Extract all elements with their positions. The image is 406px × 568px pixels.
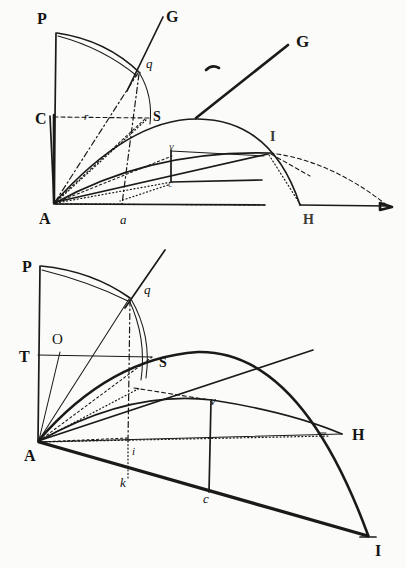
upper-ray-G2: [196, 45, 288, 118]
lower-ray-through-q: [125, 250, 165, 308]
label-lower-A: A: [24, 447, 36, 464]
upper-dashed-I-right: [271, 154, 310, 176]
upper-dotted-IH: [269, 155, 300, 204]
lower-curve-outer: [39, 352, 368, 535]
label-lower-c: c: [203, 491, 209, 506]
upper-dashed-CS: [54, 117, 150, 118]
lower-line-PA: [38, 266, 40, 441]
lower-curve-inner: [39, 398, 342, 441]
upper-ray-fan-from-A: [55, 73, 265, 205]
label-upper-G1: G: [166, 8, 179, 25]
label-upper-C: C: [35, 110, 47, 127]
label-upper-S: S: [153, 109, 161, 124]
label-lower-T: T: [19, 348, 30, 365]
label-lower-q: q: [144, 282, 151, 297]
label-lower-S: S: [159, 355, 167, 370]
lower-line-TS: [38, 355, 152, 357]
label-lower-H: H: [352, 426, 365, 443]
label-upper-c: c: [168, 177, 173, 189]
stray-tick-icon: [206, 66, 219, 70]
label-upper-v: v: [169, 140, 174, 152]
lower-ray-A-upright: [38, 350, 313, 441]
upper-arc-Pq-inner: [58, 36, 137, 76]
upper-curve-middle-tail: [270, 153, 388, 206]
engraving-plate: P G q G C r S I v c A a H: [0, 0, 406, 568]
label-upper-P: P: [37, 10, 47, 27]
upper-ray-G1: [127, 17, 163, 91]
lower-arc-Pq: [41, 266, 130, 298]
upper-chord-AI: [56, 154, 268, 202]
label-upper-A: A: [39, 210, 51, 227]
upper-dotted-c-left: [120, 185, 168, 201]
label-lower-P: P: [22, 258, 32, 275]
upper-arc-qS: [140, 74, 151, 124]
label-upper-r: r: [84, 110, 89, 122]
label-upper-H: H: [303, 212, 314, 227]
label-lower-v: v: [210, 393, 216, 408]
lower-diagram: P q O T S v H A i k c I: [0, 240, 406, 568]
label-upper-G2: G: [296, 32, 309, 51]
label-lower-O: O: [52, 331, 63, 347]
label-lower-I: I: [375, 542, 381, 559]
label-upper-a: a: [120, 212, 127, 227]
upper-curve-outer: [54, 119, 300, 205]
label-upper-I: I: [270, 129, 275, 144]
label-lower-k: k: [120, 475, 126, 490]
label-lower-i: i: [132, 445, 135, 457]
lower-chord-AI: [39, 442, 368, 536]
upper-diagram: P G q G C r S I v c A a H: [0, 0, 406, 240]
lower-vertical-vc: [209, 401, 211, 492]
label-upper-q: q: [146, 56, 153, 71]
